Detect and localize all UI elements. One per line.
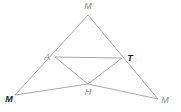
vertex-label-A: A: [43, 52, 50, 62]
segment-top-left: [15, 15, 88, 95]
vertex-label-right: M: [161, 95, 169, 105]
segment-A-T: [55, 57, 122, 58]
vertex-label-left: M: [5, 94, 13, 104]
segment-H-T: [88, 58, 122, 84]
vertex-label-H: H: [85, 87, 92, 97]
segment-A-H: [55, 57, 88, 84]
vertex-label-T: T: [127, 53, 134, 63]
segment-left-H: [15, 84, 88, 95]
labels: MATMHM: [5, 1, 169, 105]
diagram-svg: MATMHM: [0, 0, 181, 112]
geometry-diagram: MATMHM: [0, 0, 181, 112]
vertex-label-top: M: [84, 1, 92, 11]
